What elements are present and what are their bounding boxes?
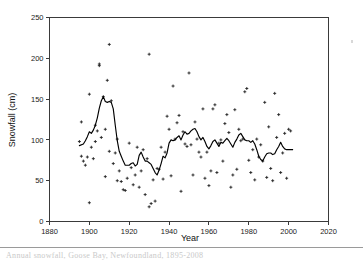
y-tick-label: 50	[35, 176, 43, 185]
y-tick-label: 100	[31, 136, 44, 145]
x-tick-label: 1980	[240, 227, 257, 236]
caption-divider-rule	[0, 247, 363, 248]
y-tick-label: 0	[39, 217, 43, 226]
chart-background	[0, 0, 363, 263]
x-tick-label: 1960	[201, 227, 218, 236]
x-tick-label: 1900	[81, 227, 98, 236]
x-tick-label: 2020	[320, 227, 337, 236]
x-tick-label: 1920	[121, 227, 138, 236]
y-tick-label: 250	[31, 13, 44, 22]
y-tick-label: 150	[31, 95, 44, 104]
x-tick-label: 1940	[161, 227, 178, 236]
x-tick-label: 1880	[41, 227, 58, 236]
figure-caption: Annual snowfall, Goose Bay, Newfoundland…	[6, 251, 203, 260]
figure-container: 050100150200250 188019001920194019601980…	[0, 0, 363, 263]
x-tick-label: 2000	[280, 227, 297, 236]
scan-artifact-speck	[351, 40, 353, 43]
y-tick-label: 200	[31, 54, 44, 63]
x-axis-title: Year	[181, 233, 199, 243]
snowfall-scatter-chart: 050100150200250 188019001920194019601980…	[0, 0, 363, 263]
y-axis-title: Snowfall (cm)	[7, 93, 17, 148]
